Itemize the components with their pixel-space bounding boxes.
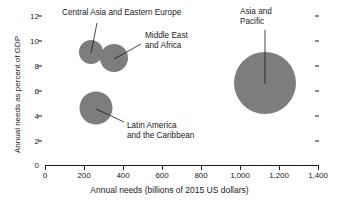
x-tick-mark-1000 (240, 166, 241, 170)
annotation-middle-east-and-africa: Middle East and Africa (145, 31, 188, 51)
x-tick-label-1200: 1,200 (269, 171, 289, 180)
x-tick-mark-1200 (279, 166, 280, 170)
y-tick-mark-right-4 (315, 116, 319, 117)
y-axis-title: Annual needs as percent of GDP (13, 20, 22, 170)
x-tick-label-800: 800 (194, 171, 207, 180)
annotation-asia-and-pacific: Asia and Pacific (240, 7, 272, 27)
annotation-central-asia-and-eastern-europe: Central Asia and Eastern Europe (62, 8, 181, 18)
y-tick-mark-8 (38, 66, 42, 67)
y-tick-mark-2 (38, 141, 42, 142)
x-tick-label-200: 200 (77, 171, 90, 180)
x-tick-mark-800 (201, 166, 202, 170)
y-tick-mark-right-2 (315, 141, 319, 142)
bubble-latin-america-and-the-caribbean[interactable] (80, 91, 113, 124)
x-tick-mark-600 (162, 166, 163, 170)
y-tick-mark-right-8 (315, 66, 319, 67)
bubble-chart: Annual needs as percent of GDP 12 10 8 6… (0, 0, 339, 209)
x-tick-mark-0 (45, 166, 46, 170)
y-tick-mark-10 (38, 41, 42, 42)
y-tick-mark-4 (38, 116, 42, 117)
x-tick-mark-400 (123, 166, 124, 170)
x-tick-label-600: 600 (155, 171, 168, 180)
y-tick-mark-right-12 (315, 16, 319, 17)
y-tick-label-0: 0 (35, 161, 39, 170)
x-tick-label-1000: 1,000 (230, 171, 250, 180)
annotation-latin-america-and-the-caribbean: Latin America and the Caribbean (127, 121, 194, 141)
x-tick-mark-200 (84, 166, 85, 170)
x-tick-label-400: 400 (116, 171, 129, 180)
bubble-asia-and-pacific[interactable] (234, 52, 296, 114)
y-tick-mark-6 (38, 91, 42, 92)
y-tick-mark-right-10 (315, 41, 319, 42)
x-tick-mark-1400 (318, 166, 319, 170)
x-tick-label-1400: 1,400 (308, 171, 328, 180)
bubble-middle-east-and-africa[interactable] (100, 44, 128, 72)
y-tick-mark-right-6 (315, 91, 319, 92)
x-axis-title: Annual needs (billions of 2015 US dollar… (0, 185, 339, 195)
y-tick-mark-12 (38, 16, 42, 17)
x-tick-label-0: 0 (43, 171, 47, 180)
x-axis-line (45, 165, 319, 166)
